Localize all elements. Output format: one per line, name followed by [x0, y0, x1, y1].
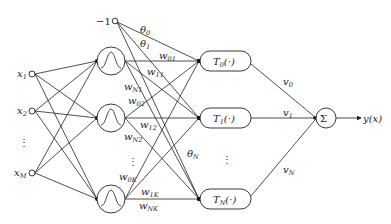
bias-label: −1: [96, 16, 111, 27]
input-hidden-edges: [35, 61, 97, 199]
svg-text:wNK: wNK: [139, 200, 159, 213]
basis-node-N: TN(·): [200, 189, 251, 209]
sum-node: Σ: [316, 108, 336, 128]
output: y(x): [336, 113, 382, 124]
hidden-ellipsis: ⋮: [128, 156, 138, 167]
input-label-2: x2: [17, 105, 27, 118]
svg-text:θ1: θ1: [140, 38, 150, 51]
svg-text:w1K: w1K: [141, 186, 160, 199]
network-diagram: x1 x2 xM ⋮ −1 ⋮ T0(·) T1(·): [0, 0, 391, 224]
svg-text:wN1: wN1: [124, 81, 142, 94]
basis-node-1: T1(·): [200, 108, 251, 128]
input-node-2: [29, 108, 35, 114]
gaussian-node-2: [97, 104, 125, 132]
input-node-1: [29, 71, 35, 77]
input-label-M: xM: [14, 167, 27, 180]
basis-node-0: T0(·): [200, 51, 251, 71]
input-ellipsis: ⋮: [19, 137, 29, 148]
bias-weight-labels: θ0 θ1 θN: [140, 24, 199, 161]
sigma-icon: Σ: [320, 113, 327, 124]
hidden-nodes: ⋮: [97, 47, 138, 213]
input-nodes: x1 x2 xM ⋮: [14, 68, 35, 180]
svg-text:θ0: θ0: [140, 24, 150, 37]
svg-text:w11: w11: [147, 66, 164, 79]
basis-ellipsis: ⋮: [222, 154, 232, 165]
basis-nodes: T0(·) T1(·) TN(·) ⋮: [200, 51, 251, 209]
output-label: y(x): [362, 113, 382, 124]
bias-edges: [117, 22, 199, 199]
bias-node: −1: [96, 16, 118, 27]
output-weight-labels: v0 v1 vN: [283, 76, 295, 177]
svg-text:w12: w12: [140, 119, 157, 132]
svg-text:v0: v0: [283, 76, 293, 89]
gaussian-node-K: [97, 185, 125, 213]
input-label-1: x1: [17, 68, 27, 81]
svg-text:vN: vN: [283, 164, 295, 177]
svg-text:w0K: w0K: [119, 171, 138, 184]
svg-text:θN: θN: [187, 148, 199, 161]
svg-text:w02: w02: [128, 95, 145, 108]
input-node-M: [29, 170, 35, 176]
svg-text:wN2: wN2: [124, 131, 142, 144]
gaussian-node-1: [97, 47, 125, 75]
